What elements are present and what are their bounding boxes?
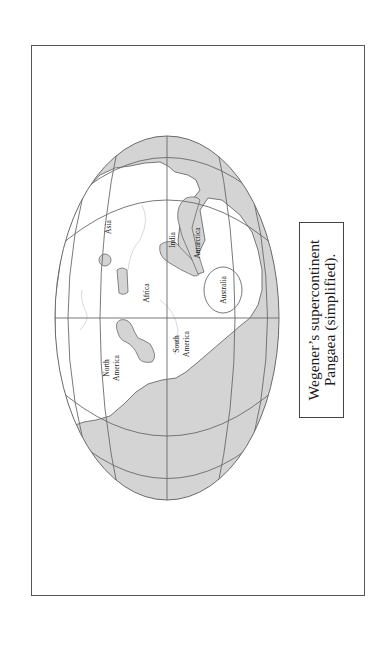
label-africa: Africa (142, 283, 151, 303)
lake-1 (99, 254, 111, 266)
lake-2 (117, 268, 128, 294)
caption-box: Wegener’s supercontinent Pangaea (simpli… (299, 222, 344, 418)
label-south-america-2: America (182, 330, 191, 356)
label-asia: Asia (104, 219, 113, 233)
label-antarctica: Antarctica (193, 227, 202, 259)
caption-line-1: Wegener’s supercontinent (306, 222, 322, 418)
figure-caption: Wegener’s supercontinent Pangaea (simpli… (306, 222, 338, 418)
label-india: India (168, 232, 177, 248)
label-australia: Australia (219, 276, 228, 304)
label-north-america-1: North (102, 359, 111, 377)
label-south-america-1: South (172, 335, 181, 353)
label-north-america-2: America (112, 354, 121, 380)
caption-line-2: Pangaea (simplified). (322, 222, 338, 418)
